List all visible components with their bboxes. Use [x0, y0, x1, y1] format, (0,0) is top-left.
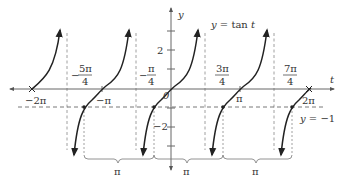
origin-label: 0 — [163, 90, 170, 101]
svg-text:π: π — [148, 63, 155, 74]
svg-text:5π: 5π — [79, 63, 92, 74]
svg-text:3π: 3π — [216, 63, 229, 74]
brace-1 — [84, 155, 154, 163]
x-axis-label: t — [330, 74, 335, 85]
fraction-7pi-4: 7π 4 — [283, 63, 297, 87]
svg-text:−: − — [139, 70, 147, 81]
tangent-graph-figure: π π π y t 0 2 −2 y = tan t y = −1 −2π −π… — [0, 0, 341, 182]
svg-text:4: 4 — [148, 76, 154, 87]
brace-label-1: π — [114, 166, 121, 177]
solution-guides — [84, 107, 292, 155]
branch-neg-pi — [74, 30, 129, 155]
y-axis-label: y — [177, 9, 184, 20]
line-label: y = −1 — [299, 113, 335, 124]
brace-label-3: π — [252, 166, 259, 177]
equation-label: y = tan t — [210, 19, 256, 30]
y-tick-label-neg-2: −2 — [153, 121, 168, 132]
brace-2 — [154, 155, 223, 163]
y-tick-label-2: 2 — [157, 45, 163, 56]
fraction-neg-5pi-4: − 5π 4 — [71, 63, 92, 87]
branch-neg-2pi — [32, 30, 60, 89]
brace-3 — [223, 155, 292, 163]
x-label-neg-2pi: −2π — [25, 95, 47, 106]
svg-text:7π: 7π — [284, 63, 297, 74]
fraction-neg-pi-4: − π 4 — [139, 63, 156, 87]
svg-text:4: 4 — [287, 76, 293, 87]
x-label-2pi: 2π — [302, 95, 315, 106]
brace-label-2: π — [183, 166, 190, 177]
x-label-neg-pi: −π — [96, 95, 111, 106]
period-braces — [84, 155, 292, 163]
svg-text:4: 4 — [82, 76, 88, 87]
svg-text:4: 4 — [219, 76, 225, 87]
fraction-3pi-4: 3π 4 — [215, 63, 229, 87]
x-label-pi: π — [236, 93, 243, 104]
